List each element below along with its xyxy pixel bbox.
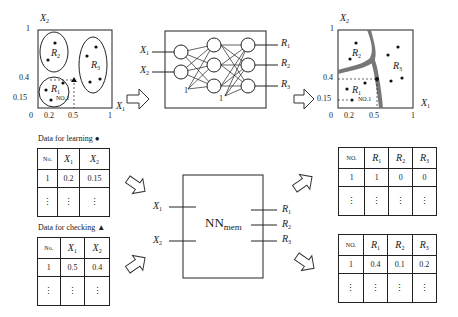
neural-network-diagram bbox=[152, 31, 278, 108]
region-label-r1: R1 bbox=[51, 83, 60, 95]
header-r2: R2 bbox=[388, 235, 412, 256]
bias-label-2: 1 bbox=[219, 94, 223, 103]
header-r1: R1 bbox=[365, 148, 389, 169]
header-r3: R3 bbox=[413, 148, 437, 169]
header-x1: X1 bbox=[60, 238, 85, 259]
y-tick-1: 1 bbox=[26, 24, 30, 33]
point-label-no1: NO.1 bbox=[358, 96, 371, 102]
table-row: 1 0.4 0.1 0.2 bbox=[339, 256, 437, 274]
header-r3: R3 bbox=[412, 235, 436, 256]
header-no: NO. bbox=[339, 148, 365, 169]
nn-mem-output-r2: R2 bbox=[282, 218, 291, 230]
header-no: No. bbox=[38, 149, 58, 170]
region-label-r3: R3 bbox=[91, 59, 100, 71]
output-label-r3: R3 bbox=[281, 78, 290, 90]
x-tick-0: 0 bbox=[29, 111, 33, 120]
x-tick-0: 0 bbox=[329, 111, 333, 120]
nn-mem-label: NNmem bbox=[205, 215, 242, 232]
table-row: 1 0.2 0.15 bbox=[38, 170, 110, 188]
table-row: 1 1 0 0 bbox=[339, 169, 437, 187]
arrow-right-icon bbox=[294, 89, 314, 109]
checking-point-triangle bbox=[71, 77, 77, 82]
input-label-x2: X2 bbox=[140, 64, 149, 76]
ellipsis-row: ⋮ ⋮ ⋮ bbox=[38, 277, 110, 306]
output-label-r1: R1 bbox=[281, 37, 290, 49]
x-axis-label: X1 bbox=[116, 100, 125, 112]
checking-output-table: NO. R1 R2 R3 1 0.4 0.1 0.2 ⋮ ⋮ ⋮ ⋮ bbox=[338, 234, 437, 303]
arrow-down-right-icon bbox=[292, 249, 320, 276]
learning-data-table: No. X1 X2 1 0.2 0.15 ⋮ ⋮ ⋮ bbox=[37, 148, 110, 217]
region-label-r1: R1 bbox=[352, 84, 361, 96]
nn-mem-input-x2: X2 bbox=[153, 234, 162, 246]
nn-mem-output-r1: R1 bbox=[282, 203, 291, 215]
header-x2: X2 bbox=[80, 149, 110, 170]
arrow-right-icon bbox=[127, 89, 149, 109]
y-tick-1: 1 bbox=[330, 24, 334, 33]
header-x1: X1 bbox=[58, 149, 80, 170]
header-no: NO. bbox=[339, 235, 364, 256]
bias-label-1: 1 bbox=[184, 86, 188, 95]
arrow-up-right-icon bbox=[123, 250, 151, 277]
nn-mem-input-x1: X1 bbox=[153, 200, 162, 212]
learning-scatter-plot bbox=[38, 30, 112, 108]
ellipsis-row: ⋮ ⋮ ⋮ ⋮ bbox=[339, 187, 437, 216]
input-label-x1: X1 bbox=[140, 44, 149, 56]
y-axis-label: X2 bbox=[40, 12, 49, 24]
x-tick-0.2: 0.2 bbox=[344, 111, 354, 120]
arrow-up-right-icon bbox=[290, 169, 318, 196]
header-r2: R2 bbox=[389, 148, 413, 169]
output-label-r2: R2 bbox=[281, 57, 290, 69]
x-tick-0.5: 0.5 bbox=[369, 111, 379, 120]
y-axis-label: X2 bbox=[340, 12, 349, 24]
x-tick-0.2: 0.2 bbox=[44, 111, 54, 120]
region-label-r3: R3 bbox=[393, 60, 402, 72]
nn-mem-output-r3: R3 bbox=[282, 233, 291, 245]
x-tick-0.5: 0.5 bbox=[68, 111, 78, 120]
region-label-r2: R2 bbox=[51, 47, 60, 59]
region-label-r2: R2 bbox=[352, 47, 361, 59]
y-tick-0.15: 0.15 bbox=[317, 94, 331, 103]
arrow-down-right-icon bbox=[123, 172, 151, 199]
y-tick-0.15: 0.15 bbox=[13, 93, 27, 102]
y-tick-0.4: 0.4 bbox=[323, 73, 333, 82]
checking-table-caption: Data for checking ▲ bbox=[38, 223, 105, 232]
ellipsis-row: ⋮ ⋮ ⋮ bbox=[38, 188, 110, 217]
y-tick-0.4: 0.4 bbox=[19, 73, 29, 82]
checking-data-table: No. X1 X2 1 0.5 0.4 ⋮ ⋮ ⋮ bbox=[37, 237, 110, 306]
table-row: 1 0.5 0.4 bbox=[38, 259, 110, 277]
x-tick-1: 1 bbox=[411, 111, 415, 120]
x-axis-label: X1 bbox=[421, 97, 430, 109]
learning-output-table: NO. R1 R2 R3 1 1 0 0 ⋮ ⋮ ⋮ ⋮ bbox=[338, 147, 437, 216]
header-no: No. bbox=[38, 238, 61, 259]
ellipsis-row: ⋮ ⋮ ⋮ ⋮ bbox=[339, 274, 437, 303]
x-tick-1: 1 bbox=[108, 111, 112, 120]
header-x2: X2 bbox=[85, 238, 110, 259]
learning-table-caption: Data for learning ● bbox=[38, 134, 99, 143]
point-label-no1: NO.1 bbox=[56, 95, 69, 101]
header-r1: R1 bbox=[363, 235, 387, 256]
